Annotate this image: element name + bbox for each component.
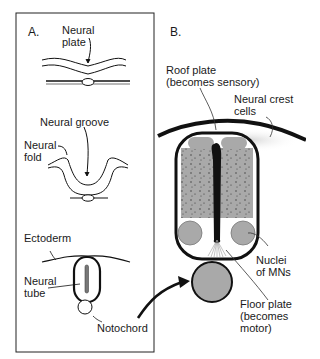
label-ectoderm: Ectoderm: [24, 232, 71, 244]
label-notochord: Notochord: [97, 322, 148, 334]
label-neural-fold: Neural fold: [24, 139, 56, 163]
panel-b-label: B.: [170, 25, 181, 39]
label-roof-plate: Roof plate (becomes sensory): [166, 64, 260, 88]
mn-nucleus-left: [178, 221, 202, 245]
label-nuclei-mns: Nuclei of MNs: [256, 254, 291, 278]
panel-a-label: A.: [28, 25, 39, 39]
arrowhead: [178, 276, 190, 288]
label-neural-crest: Neural crest cells: [234, 93, 293, 117]
curved-arrow: [138, 282, 182, 318]
notochord-cross-section: [192, 262, 232, 302]
neural-tube-cross-section: [176, 133, 258, 259]
label-neural-groove: Neural groove: [40, 116, 109, 128]
neural-groove-drawing: [48, 127, 128, 201]
label-neural-plate: Neural plate: [62, 24, 94, 48]
label-floor-plate: Floor plate (becomes motor): [240, 298, 292, 334]
label-neural-tube: Neural tube: [24, 275, 56, 299]
